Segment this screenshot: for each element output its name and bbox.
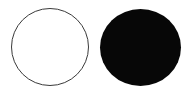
shape-canvas <box>0 0 187 95</box>
circle-filled-shape <box>100 9 181 86</box>
circle-outline-shape <box>11 8 89 86</box>
